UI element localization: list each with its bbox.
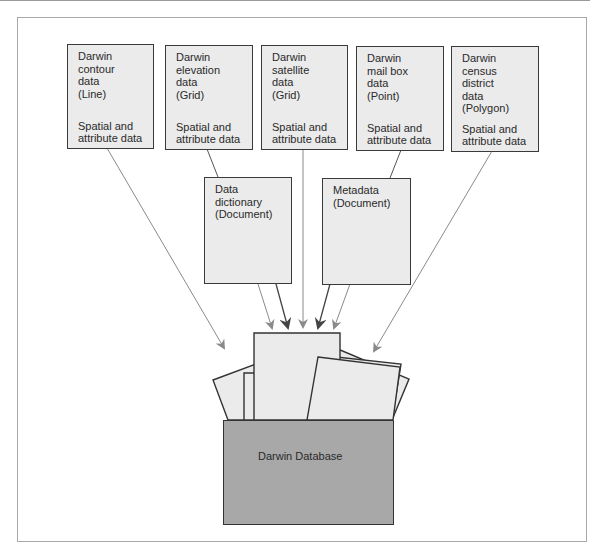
box-subtitle: Spatial and attribute data: [272, 121, 336, 146]
edge-mailbox-to-metadata: [390, 150, 401, 178]
edge-elevation-to-dictionary: [207, 149, 218, 177]
source-box-elevation: Darwin elevation data (Grid) Spatial and…: [165, 45, 253, 150]
box-title: Darwin satellite data (Grid): [272, 51, 309, 101]
paper-right-top: [307, 357, 400, 420]
edge-metadata-to-database-1: [318, 284, 330, 328]
database-papers: [213, 333, 409, 420]
document-box-data-dictionary: Data dictionary (Document): [204, 177, 292, 284]
source-box-census: Darwin census district data (Polygon) Sp…: [451, 46, 539, 152]
box-title: Darwin census district data (Polygon): [462, 52, 509, 115]
box-subtitle: Spatial and attribute data: [367, 122, 431, 147]
box-title: Data dictionary (Document): [215, 183, 272, 221]
document-box-metadata: Metadata (Document): [322, 178, 411, 285]
box-subtitle: Spatial and attribute data: [462, 123, 526, 148]
box-subtitle: Spatial and attribute data: [78, 120, 142, 145]
source-box-contour: Darwin contour data (Line) Spatial and a…: [67, 44, 154, 149]
database-box: Darwin Database: [223, 420, 394, 525]
box-title: Metadata (Document): [333, 184, 390, 209]
source-box-satellite: Darwin satellite data (Grid) Spatial and…: [261, 45, 348, 150]
box-title: Darwin contour data (Line): [78, 50, 115, 100]
edge-dictionary-to-database-2: [276, 284, 288, 328]
edge-dictionary-to-database-1: [258, 284, 272, 328]
box-title: Darwin mail box data (Point): [367, 52, 408, 102]
box-title: Darwin elevation data (Grid): [176, 51, 220, 101]
edge-metadata-to-database-2: [334, 284, 350, 328]
database-label: Darwin Database: [258, 450, 342, 462]
source-box-mailbox: Darwin mail box data (Point) Spatial and…: [356, 46, 444, 151]
box-subtitle: Spatial and attribute data: [176, 121, 240, 146]
